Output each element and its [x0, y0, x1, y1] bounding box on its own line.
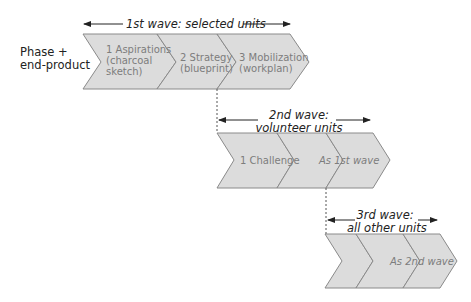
label-line: 1 Aspirations: [106, 44, 171, 55]
wave1-phase2-label: 2 Strategy (blueprint): [180, 52, 233, 74]
wave3-phase3-label: As 2nd wave: [390, 256, 454, 267]
row-label-line2: end-product: [20, 59, 90, 72]
label-line: 2 Strategy: [180, 52, 233, 63]
wave1-phase3-label: 3 Mobilization (workplan): [239, 52, 309, 74]
wave2-title-line2: volunteer units: [254, 122, 344, 135]
wave2-phase3-label: As 1st wave: [319, 155, 379, 166]
label-line: (blueprint): [180, 63, 233, 74]
wave2-title: 2nd wave: volunteer units: [254, 109, 344, 135]
wave2-phase1-label: 1 Challenge: [240, 155, 300, 166]
label-line: sketch): [106, 66, 171, 77]
label-line: 3 Mobilization: [239, 52, 309, 63]
wave1-title: 1st wave: selected units: [126, 18, 266, 31]
wave3-title: 3rd wave: all other units: [347, 209, 423, 235]
row-label: Phase + end-product: [20, 46, 90, 72]
label-line: (charcoal: [106, 55, 171, 66]
wave3-title-line2: all other units: [347, 222, 423, 235]
label-line: (workplan): [239, 63, 309, 74]
wave1-phase1-label: 1 Aspirations (charcoal sketch): [106, 44, 171, 77]
